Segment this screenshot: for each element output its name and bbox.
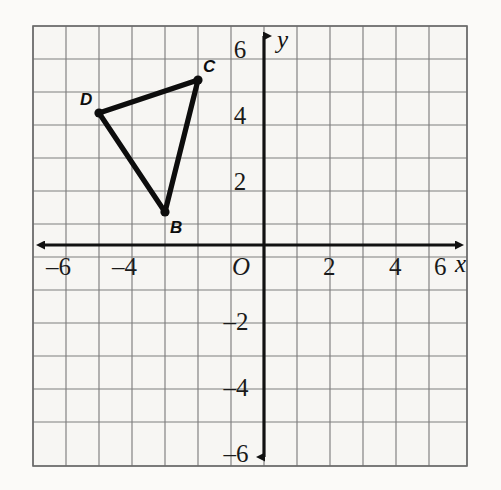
x-axis-name: x [454,250,466,277]
x-tick-label-neg6: –6 [45,253,71,280]
x-tick-label-neg4: –4 [111,253,138,280]
y-tick-label-neg4: –4 [223,374,250,401]
vertex-point-b [160,207,169,216]
vertex-label-d: D [80,90,92,109]
y-axis-name: y [274,26,289,53]
origin-label: O [232,253,250,280]
x-tick-label-2: 2 [323,253,336,280]
vertex-label-b: B [170,218,182,237]
y-tick-label-6: 6 [234,36,247,63]
y-tick-label-2: 2 [234,168,247,195]
vertex-point-c [193,75,202,84]
coordinate-plane-figure: y x O –6 –4 2 4 6 6 4 2 –2 –4 –6 B C D [0,0,501,490]
x-tick-label-4: 4 [389,253,402,280]
vertex-label-c: C [203,57,216,76]
y-tick-label-neg6: –6 [223,440,249,467]
x-tick-label-6: 6 [434,253,447,280]
vertex-point-d [94,108,103,117]
y-tick-label-neg2: –2 [223,308,249,335]
y-tick-label-4: 4 [234,102,247,129]
coordinate-plane-svg: y x O –6 –4 2 4 6 6 4 2 –2 –4 –6 B C D [0,0,501,490]
